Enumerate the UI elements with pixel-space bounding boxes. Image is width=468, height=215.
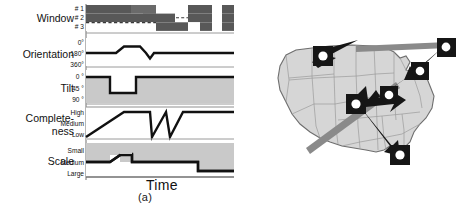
window-cell: [200, 22, 212, 31]
window-cell: [222, 14, 234, 23]
map-node[interactable]: [380, 86, 398, 104]
tilt-series-fill: [86, 77, 234, 103]
map-node[interactable]: [437, 38, 456, 57]
window-cell: [131, 5, 156, 14]
window-cell: [143, 14, 175, 23]
panel-a-caption: (a): [138, 191, 152, 203]
window-cell: [212, 5, 222, 14]
us-map-svg: [234, 0, 468, 215]
map-node[interactable]: [411, 62, 429, 80]
window-cell: [175, 22, 188, 31]
window-cell: [222, 5, 234, 14]
window-cell: [212, 22, 222, 31]
window-cell: [222, 22, 234, 31]
scale-peak-fill: [120, 145, 132, 154]
map-node[interactable]: [390, 145, 410, 165]
window-cell: [212, 14, 222, 23]
window-cell: [188, 14, 212, 23]
window-cell: [188, 5, 212, 14]
panel-b-map: (b): [234, 0, 468, 215]
chart-orientation: [86, 38, 234, 67]
window-cell: [156, 5, 188, 14]
figure-root: Window Orientation Tilt Complete- ness S…: [0, 0, 468, 215]
window-cell: [86, 14, 131, 23]
chart-window: [86, 5, 234, 33]
window-cell: [86, 22, 156, 31]
chart-scale: [86, 143, 234, 177]
gray-route-top: [356, 42, 448, 52]
window-cell: [188, 22, 200, 31]
window-cell: [86, 5, 131, 14]
chart-completeness: [86, 107, 234, 140]
map-node[interactable]: [313, 46, 333, 66]
map-node[interactable]: [346, 94, 366, 114]
chart-tilt: [86, 70, 234, 104]
window-cell: [156, 22, 175, 31]
panel-a-timeline-chart: Window Orientation Tilt Complete- ness S…: [0, 0, 234, 215]
panel-a-plots: [0, 0, 234, 215]
